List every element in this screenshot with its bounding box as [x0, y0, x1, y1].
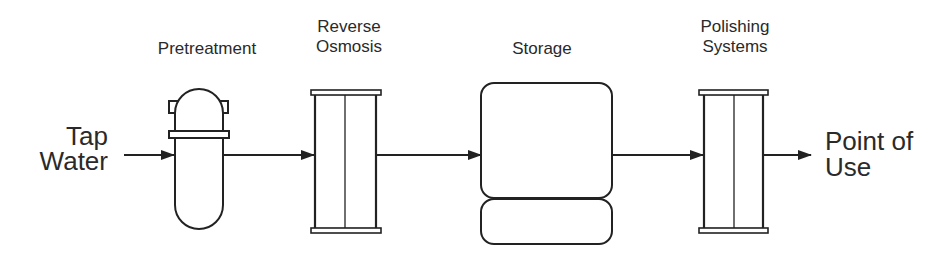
stage-label-reverse-osmosis: Reverse Osmosis [316, 17, 382, 56]
svg-text:Systems: Systems [702, 37, 767, 56]
output-label-point-of-use: Point of Use [825, 126, 914, 182]
reverse-osmosis-module-icon [311, 90, 381, 233]
polishing-systems-module-icon [699, 90, 768, 233]
storage-tank-icon [481, 83, 612, 244]
input-label-tap-water: Tap Water [40, 121, 109, 176]
stage-label-pretreatment: Pretreatment [158, 39, 257, 58]
svg-text:Osmosis: Osmosis [316, 37, 382, 56]
svg-text:Water: Water [40, 146, 109, 176]
water-treatment-diagram: Tap Water Pretreatment Reverse Osmosis S… [0, 0, 933, 260]
pretreatment-vessel-icon [169, 89, 229, 229]
stage-label-storage: Storage [512, 39, 572, 58]
svg-text:Polishing: Polishing [701, 17, 770, 36]
svg-text:Use: Use [825, 152, 871, 182]
stage-label-polishing-systems: Polishing Systems [701, 17, 770, 56]
svg-text:Reverse: Reverse [317, 17, 380, 36]
